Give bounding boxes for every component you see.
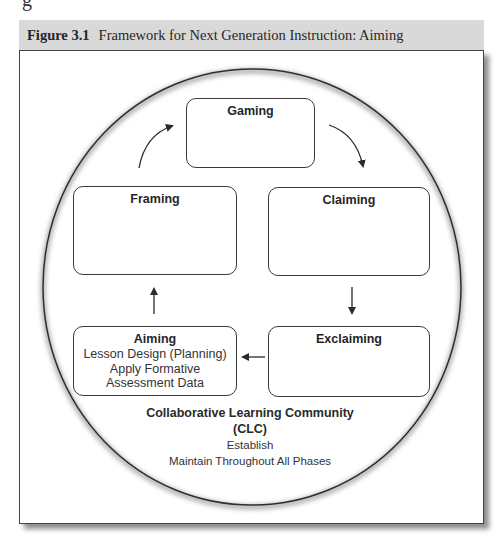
box-exclaiming-title: Exclaiming <box>269 332 429 347</box>
aiming-detail-line: Assessment Data <box>74 376 236 391</box>
box-claiming-title: Claiming <box>269 193 429 208</box>
box-claiming: Claiming <box>268 187 430 276</box>
box-aiming: Aiming Lesson Design (Planning) Apply Fo… <box>73 326 237 396</box>
clc-detail-line: Establish <box>100 437 400 453</box>
box-framing-title: Framing <box>74 192 236 207</box>
clc-label: Collaborative Learning Community (CLC) E… <box>100 405 400 469</box>
page-text-fragment: g <box>22 0 32 11</box>
figure-caption: Figure 3.1Framework for Next Generation … <box>19 20 484 51</box>
clc-title: Collaborative Learning Community <box>100 405 400 421</box>
box-aiming-title: Aiming <box>74 332 236 347</box>
box-framing: Framing <box>73 186 237 275</box>
box-gaming: Gaming <box>186 98 315 168</box>
clc-detail-line: Maintain Throughout All Phases <box>100 453 400 469</box>
figure-title: Framework for Next Generation Instructio… <box>99 27 404 43</box>
box-gaming-title: Gaming <box>187 104 314 119</box>
aiming-detail-line: Lesson Design (Planning) <box>74 347 236 362</box>
clc-abbreviation: (CLC) <box>100 421 400 437</box>
box-exclaiming: Exclaiming <box>268 326 430 397</box>
aiming-detail-line: Apply Formative <box>74 362 236 377</box>
figure-number: Figure 3.1 <box>27 27 90 43</box>
